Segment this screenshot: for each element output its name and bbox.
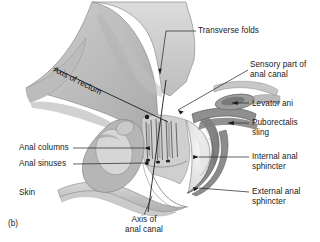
label-external-anal-sphincter: External anal sphincter xyxy=(252,187,300,207)
figure-letter: (b) xyxy=(8,219,18,228)
label-levator-ani: Levator ani xyxy=(252,99,293,109)
dot-axis-rectum-terminal xyxy=(145,115,149,119)
label-internal-anal-sphincter: Internal anal sphincter xyxy=(252,152,298,172)
label-transverse-folds: Transverse folds xyxy=(198,26,259,36)
label-skin: Skin xyxy=(19,188,35,198)
label-anal-sinuses: Anal sinuses xyxy=(19,159,66,169)
puborectalis-sling xyxy=(192,108,258,130)
label-sensory-part-of-anal-canal: Sensory part of anal canal xyxy=(250,60,306,80)
label-anal-columns: Anal columns xyxy=(19,143,69,153)
dot-anal-sinuses xyxy=(145,161,149,165)
anterior-perineal-body xyxy=(82,118,144,192)
figure-panel-b: Transverse folds Sensory part of anal ca… xyxy=(0,0,320,242)
label-puborectalis-sling: Puborectalis sling xyxy=(252,118,298,138)
arrow-sensory-part xyxy=(178,110,184,115)
label-axis-of-anal-canal: Axis of anal canal xyxy=(108,215,180,235)
